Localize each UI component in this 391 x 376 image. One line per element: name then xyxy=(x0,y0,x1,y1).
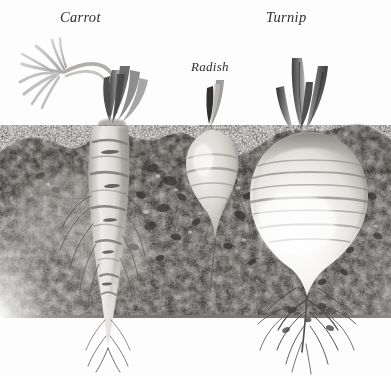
label-radish: Radish xyxy=(191,59,229,75)
botanical-illustration xyxy=(0,0,391,376)
illustration-canvas: Carrot Radish Turnip xyxy=(0,0,391,376)
label-turnip: Turnip xyxy=(266,9,307,26)
label-carrot: Carrot xyxy=(60,9,101,26)
